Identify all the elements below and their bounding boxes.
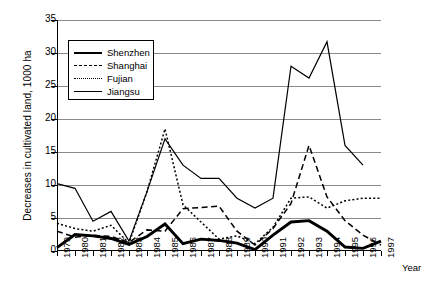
- legend-label-shenzhen: Shenzhen: [107, 48, 150, 58]
- legend-item-jiangsu: Jiangsu: [74, 85, 153, 98]
- series-lines: [0, 0, 440, 300]
- legend-label-jiangsu: Jiangsu: [107, 87, 140, 97]
- legend-swatch-shanghai: [74, 61, 102, 70]
- legend-swatch-jiangsu: [74, 87, 102, 96]
- series-line-fujian: [57, 129, 381, 244]
- legend-swatch-shenzhen: [74, 48, 102, 57]
- legend-label-fujian: Fujian: [107, 74, 133, 84]
- legend-swatch-fujian: [74, 74, 102, 83]
- legend-item-shanghai: Shanghai: [74, 59, 153, 72]
- legend-label-shanghai: Shanghai: [107, 61, 147, 71]
- chart-legend: Shenzhen Shanghai Fujian Jiangsu: [68, 40, 154, 100]
- series-line-shenzhen: [57, 221, 381, 250]
- legend-item-fujian: Fujian: [74, 72, 153, 85]
- series-line-shanghai: [57, 145, 381, 245]
- chart-container: Decreases in cultivated land, 1000 ha 05…: [0, 0, 440, 300]
- legend-item-shenzhen: Shenzhen: [74, 46, 153, 59]
